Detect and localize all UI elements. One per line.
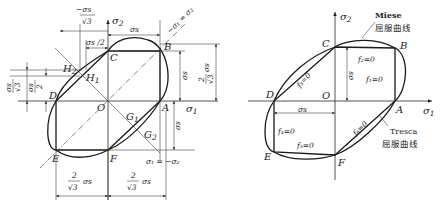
dim-sigma-top: σs <box>130 25 139 34</box>
point-D-right: D <box>265 89 274 100</box>
dim-2-sqrt3-sigma-right: 2 √3 σs <box>197 63 215 84</box>
dim-sigma-horizontal-right: σs <box>298 105 307 114</box>
svg-text:2: 2 <box>197 77 206 83</box>
point-D: D <box>48 90 57 101</box>
point-E: E <box>51 153 60 164</box>
diagonal-neg-label: σ₁ = −σ₂ <box>146 157 180 166</box>
point-E-right: E <box>263 151 272 162</box>
dim-sigma-lower-right: σs <box>173 121 182 130</box>
svg-text:√3: √3 <box>127 183 137 192</box>
point-F-right: F <box>337 157 346 168</box>
svg-text:2: 2 <box>71 171 77 180</box>
miese-label: Miese <box>375 10 402 20</box>
dim-sigma-right: σs <box>180 71 189 80</box>
tresca-cn-label: 屈服曲线 <box>382 139 418 149</box>
point-A: A <box>161 102 169 113</box>
point-B: B <box>163 41 171 52</box>
left-diagram: B C D O A E F H1 H2 G1 G2 σ2 σ1 −σ₁ = σ₂… <box>4 5 220 200</box>
miese-cn-label: 屈服曲线 <box>375 23 411 33</box>
svg-text:√3: √3 <box>206 74 215 84</box>
face-f5: f₅=0 <box>296 141 314 150</box>
dim-2-sqrt3-sigma-bottom-left: 2 √3 σs <box>68 171 92 192</box>
svg-text:√3: √3 <box>13 82 22 92</box>
svg-text:√3: √3 <box>82 17 92 26</box>
point-H1: H1 <box>85 72 100 85</box>
face-f3: f₃=0 <box>294 71 313 90</box>
point-B-right: B <box>399 40 407 51</box>
point-H2: H2 <box>62 63 77 76</box>
point-C: C <box>110 52 118 63</box>
point-G1: G1 <box>126 111 139 124</box>
point-O-right: O <box>322 90 330 101</box>
svg-text:σs: σs <box>142 177 151 186</box>
point-O: O <box>97 102 105 113</box>
right-diagram: C B D O A E F σ2 σ1 Miese 屈服曲线 Tresca 屈服… <box>248 10 435 180</box>
yield-criteria-figure: B C D O A E F H1 H2 G1 G2 σ2 σ1 −σ₁ = σ₂… <box>0 0 440 212</box>
svg-text:2: 2 <box>35 84 44 90</box>
tresca-label: Tresca <box>390 127 417 136</box>
dim-sigma-half-left: σs 2 <box>26 80 44 93</box>
dim-2-sqrt3-sigma-bottom-right: 2 √3 σs <box>127 171 151 192</box>
face-f2: f₂=0 <box>357 55 375 64</box>
svg-text:σs: σs <box>202 63 211 72</box>
point-F: F <box>109 153 118 164</box>
point-A-right: A <box>395 104 403 115</box>
point-C-right: C <box>322 38 330 49</box>
svg-text:2: 2 <box>130 171 136 180</box>
point-G2: G2 <box>144 129 157 142</box>
dim-sigma-sqrt3-left: σs √3 <box>4 79 22 93</box>
svg-text:σs: σs <box>4 83 13 92</box>
diagonal-pos-label: −σ₁ = σ₂ <box>165 5 195 35</box>
sigma2-label: σ2 <box>112 15 124 28</box>
svg-text:σs: σs <box>26 83 35 92</box>
face-f4: f₄=0 <box>277 127 295 136</box>
sigma2-label-right: σ2 <box>340 11 352 24</box>
dim-sigma-vertical-right: σs <box>346 71 355 80</box>
dim-half-sigma: σs /2 <box>86 38 105 47</box>
sigma1-label-right: σ1 <box>423 105 435 118</box>
sigma1-label: σ1 <box>186 103 198 116</box>
face-f1: f₁=0 <box>365 75 383 84</box>
svg-text:√3: √3 <box>68 183 78 192</box>
svg-text:σs: σs <box>83 177 92 186</box>
dim-neg-sigma-sqrt3: −σs <box>76 5 91 14</box>
